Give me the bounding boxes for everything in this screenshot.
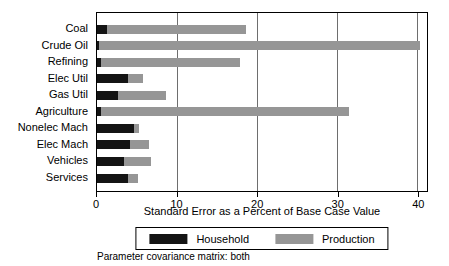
legend-box: HouseholdProduction (135, 227, 388, 250)
gridline (417, 13, 418, 191)
tick-mark (338, 192, 339, 197)
category-label: Refining (48, 56, 88, 67)
bar-row (97, 25, 246, 34)
bar-segment-household (97, 124, 134, 133)
bar-segment-production (99, 41, 421, 50)
bar-row (97, 107, 349, 116)
bar-segment-production (101, 58, 240, 67)
bar-segment-production (124, 157, 151, 166)
gridline (337, 13, 338, 191)
category-label: Vehicles (47, 155, 88, 166)
bar-segment-production (118, 91, 166, 100)
x-axis-title: Standard Error as a Percent of Base Case… (96, 205, 428, 217)
category-label: Coal (65, 23, 88, 34)
bar-row (97, 74, 143, 83)
bar-segment-production (134, 124, 139, 133)
category-label: Nonelec Mach (18, 122, 88, 133)
legend-swatch-production (275, 234, 313, 244)
category-label: Gas Util (49, 89, 88, 100)
category-label: Services (46, 172, 88, 183)
bar-row (97, 58, 240, 67)
bar-segment-household (97, 74, 128, 83)
tick-mark (418, 192, 419, 197)
bar-row (97, 157, 151, 166)
bar-segment-household (97, 174, 128, 183)
legend-swatch-household (149, 234, 187, 244)
category-label: Elec Util (48, 72, 88, 83)
bar-row (97, 41, 420, 50)
category-axis-labels: CoalCrude OilRefiningElec UtilGas UtilAg… (0, 12, 92, 192)
category-label: Agriculture (35, 105, 88, 116)
bar-row (97, 174, 138, 183)
bar-row (97, 140, 149, 149)
bar-segment-production (130, 140, 149, 149)
bar-segment-production (101, 107, 349, 116)
legend-label: Production (322, 233, 375, 245)
tick-mark (96, 192, 97, 197)
category-label: Crude Oil (42, 39, 88, 50)
bar-segment-production (107, 25, 246, 34)
bar-row (97, 124, 139, 133)
legend-item-household: Household (149, 233, 249, 245)
bar-row (97, 91, 166, 100)
category-label: Elec Mach (37, 138, 88, 149)
bar-segment-production (128, 174, 138, 183)
bar-segment-household (97, 91, 118, 100)
plot-area (96, 12, 428, 192)
gridline (257, 13, 258, 191)
tick-mark (177, 192, 178, 197)
stacked-bar-chart-figure: CoalCrude OilRefiningElec UtilGas UtilAg… (0, 0, 449, 266)
legend-label: Household (196, 233, 249, 245)
legend-item-production: Production (275, 233, 375, 245)
gridline (177, 13, 178, 191)
bar-segment-household (97, 140, 130, 149)
bar-segment-household (97, 25, 107, 34)
tick-mark (257, 192, 258, 197)
bar-segment-household (97, 157, 124, 166)
bar-segment-production (128, 74, 143, 83)
figure-caption: Parameter covariance matrix: both (97, 251, 250, 262)
